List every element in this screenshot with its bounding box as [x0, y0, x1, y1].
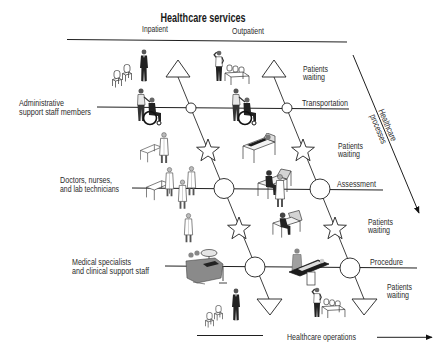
waiting-label-line2: waiting — [367, 225, 390, 235]
circle-icon — [282, 103, 292, 113]
surgery-team-illustration — [186, 250, 227, 285]
waiting-chair-illustration — [215, 305, 223, 320]
waiting-bench-illustration — [225, 65, 249, 85]
circle-icon — [245, 257, 265, 277]
waiting-chair-illustration — [206, 312, 214, 327]
column-inpatient-label: Inpatient — [142, 24, 168, 34]
lab-technician-illustration — [184, 213, 192, 242]
waiting-label-2: Patients waiting — [337, 141, 363, 159]
waiting-label-1: Patients waiting — [302, 64, 328, 82]
patient-in-chair-illustration — [273, 210, 302, 237]
triangle-icon — [166, 60, 190, 77]
circle-icon — [310, 179, 330, 199]
stage-label-transportation: Transportation — [302, 98, 348, 108]
wheelchair-transport-illustration — [233, 89, 257, 126]
waiting-label-3: Patients waiting — [367, 217, 393, 235]
operating-table-illustration — [289, 248, 329, 285]
waiting-label-line2: waiting — [337, 149, 360, 159]
waiting-label-line2: waiting — [386, 290, 409, 300]
circle-icon — [186, 103, 196, 113]
triangle-icon — [262, 60, 286, 77]
staff-group-label-line2: and lab technicians — [60, 184, 119, 194]
star-icon — [292, 139, 315, 161]
triangle-down-icon — [352, 299, 377, 315]
staff-group-label-line2: support staff members — [19, 107, 91, 117]
stage-label-assessment: Assessment — [337, 179, 376, 189]
star-icon — [197, 139, 220, 161]
staff-group-clinical: Doctors, nurses, and lab technicians — [60, 175, 119, 194]
staff-group-specialists: Medical specialists and clinical support… — [72, 257, 149, 276]
exam-table-illustration — [140, 145, 161, 163]
doctor-examining-patient-illustration — [258, 169, 291, 207]
staff-group-administrative: Administrative support staff members — [19, 98, 91, 117]
nurse-illustration — [178, 180, 186, 209]
doctor-illustration — [160, 133, 169, 163]
waiting-label-line2: waiting — [302, 72, 325, 82]
circle-icon — [214, 179, 234, 199]
triangle-down-icon — [257, 299, 282, 315]
healthcare-services-diagram: Healthcare services Inpatient Outpatient… — [0, 0, 448, 356]
waiting-label-4: Patients waiting — [386, 282, 412, 300]
column-outpatient-label: Outpatient — [232, 26, 264, 36]
waiting-chair-illustration — [113, 71, 122, 88]
header-divider-line — [67, 40, 347, 43]
diagram-title: Healthcare services — [161, 11, 246, 25]
doctor-illustration — [187, 166, 195, 195]
wheelchair-transport-illustration — [138, 89, 162, 126]
staff-group-label-line2: and clinical support staff — [72, 266, 149, 276]
waiting-chair-illustration — [123, 65, 132, 82]
star-icon — [324, 217, 347, 239]
patient-on-phone-illustration — [312, 288, 321, 317]
stage-label-procedure: Procedure — [370, 257, 403, 267]
healthcare-processes-label: Healthcare processes — [367, 107, 399, 146]
patient-on-phone-illustration — [214, 51, 223, 81]
standing-patient-illustration — [232, 289, 240, 321]
standing-patient-illustration — [140, 50, 148, 82]
healthcare-operations-label: Healthcare operations — [287, 332, 356, 342]
circle-icon — [340, 258, 360, 278]
star-icon — [228, 217, 251, 239]
patient-on-bed-illustration — [243, 133, 275, 163]
waiting-bench-illustration — [322, 299, 345, 318]
